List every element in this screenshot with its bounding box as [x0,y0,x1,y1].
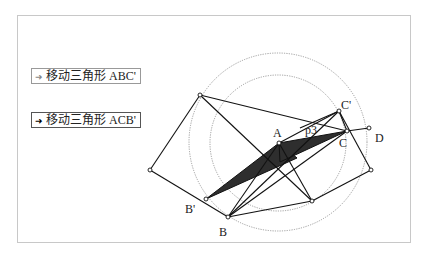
point-bottom-mid[interactable] [310,199,314,203]
point-b-prime[interactable] [204,197,208,201]
label-b: B [219,226,227,238]
point-d[interactable] [367,126,371,130]
point-top[interactable] [198,93,202,97]
label-p3: p3 [305,124,317,136]
label-c-prime: C' [341,99,351,111]
point-b[interactable] [226,215,230,219]
geometry-diagram [0,0,426,258]
point-c[interactable] [345,129,349,133]
label-c: C [339,137,347,149]
point-a[interactable] [277,141,281,145]
label-a: A [273,127,282,139]
point-left[interactable] [148,168,152,172]
label-d: D [375,132,384,144]
label-b-prime: B' [185,203,195,215]
point-right[interactable] [369,168,373,172]
